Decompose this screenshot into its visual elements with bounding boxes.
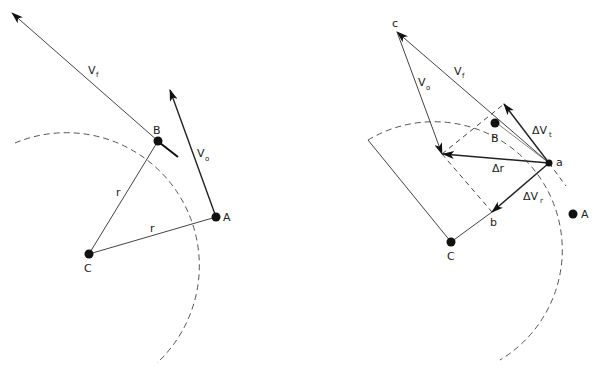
label-delta-vt: ΔV [532,124,548,137]
label-A: A [223,211,231,224]
vf-vector-right [397,32,549,163]
label-vo-right-sub: o [426,84,430,92]
vo-vector-right [397,32,442,154]
point-a [546,160,553,167]
point-A [212,213,221,222]
label-C-right: C [447,250,455,263]
circular-motion-diagram: V f V o B A C r r [0,0,597,376]
label-B: B [153,124,161,137]
right-panel: c V f V o B ΔV t a Δr ΔV r A b C [368,17,589,360]
label-a: a [556,156,563,169]
label-vf-sub: f [96,71,99,79]
label-B-right: B [491,132,499,145]
label-delta-vr-sub: r [540,197,543,205]
vf-vector [12,13,158,141]
label-vo-right: V [418,76,426,89]
label-delta-r: Δr [492,162,505,175]
label-b: b [490,216,497,229]
label-delta-vr: ΔV [523,190,539,203]
label-r-CA: r [150,222,155,235]
tangent-tick [160,143,178,157]
left-panel: V f V o B A C r r [12,13,231,363]
dashed-tip-b [442,154,492,212]
label-vf: V [88,64,96,77]
left-orbit-arc [15,133,199,363]
right-orbit-arc [368,122,562,360]
label-vf-right-sub: f [462,72,465,80]
vo-vector [170,90,216,217]
point-B-right [491,119,500,128]
point-C [85,250,94,259]
label-vo: V [197,147,205,160]
label-r-CB: r [116,186,121,199]
label-vf-right: V [454,65,462,78]
label-delta-vt-sub: t [549,131,552,139]
label-C: C [84,262,92,275]
label-A-right: A [581,208,589,221]
label-vo-sub: o [205,155,209,163]
dashed-tip-t [442,104,504,154]
segment-C-b [451,212,492,242]
point-B [154,137,163,146]
radius-C-arc [368,140,451,242]
point-A-right [569,210,578,219]
point-C-right [447,238,456,247]
label-c: c [392,17,398,30]
